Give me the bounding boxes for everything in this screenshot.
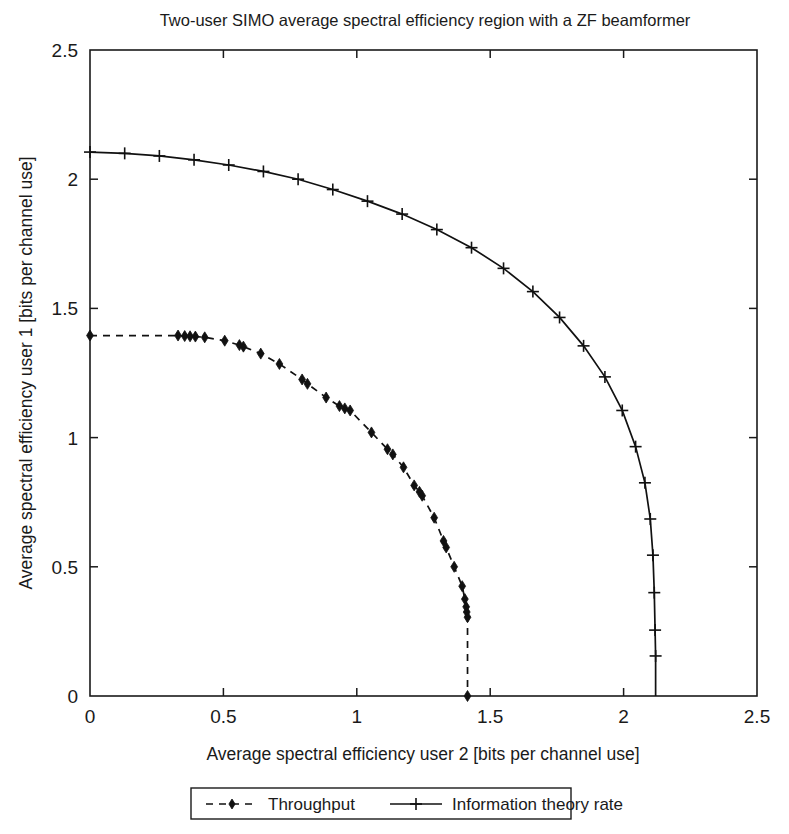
- marker-diamond: [464, 691, 471, 702]
- x-tick-label: 1: [352, 706, 363, 727]
- x-axis-ticks: [223, 50, 623, 696]
- marker-diamond: [175, 330, 182, 341]
- marker-plus: [644, 513, 656, 525]
- y-tick-label: 2.5: [52, 40, 78, 61]
- marker-plus: [648, 587, 660, 599]
- y-tick-label: 0.5: [52, 557, 78, 578]
- x-tick-label: 2.5: [744, 706, 770, 727]
- marker-plus: [153, 150, 165, 162]
- data-series-layer: [84, 146, 662, 701]
- x-tick-label: 0.5: [210, 706, 236, 727]
- legend-label: Information theory rate: [452, 795, 623, 814]
- marker-diamond: [201, 332, 208, 343]
- y-tick-label: 2: [67, 169, 78, 190]
- marker-plus: [84, 146, 96, 158]
- marker-diamond: [87, 330, 94, 341]
- series-2: [84, 146, 662, 696]
- marker-diamond: [221, 335, 228, 346]
- marker-plus: [327, 184, 339, 196]
- marker-plus: [188, 154, 200, 166]
- marker-plus: [630, 441, 642, 453]
- marker-plus: [431, 224, 443, 236]
- marker-plus: [649, 624, 661, 636]
- y-axis-title: Average spectral efficiency user 1 [bits…: [16, 156, 36, 589]
- marker-diamond: [336, 401, 343, 412]
- axes-border: [90, 50, 757, 696]
- x-axis-tick-labels: 00.511.522.5: [85, 706, 771, 727]
- chart-title: Two-user SIMO average spectral efficienc…: [160, 11, 691, 29]
- series-line: [90, 336, 468, 696]
- legend-label: Throughput: [268, 795, 355, 814]
- plot-frame: [90, 50, 757, 696]
- marker-diamond: [368, 427, 375, 438]
- marker-diamond: [192, 331, 199, 342]
- x-axis-title: Average spectral efficiency user 2 [bits…: [206, 744, 639, 764]
- y-tick-label: 1: [67, 428, 78, 449]
- marker-diamond: [257, 348, 264, 359]
- marker-diamond: [323, 392, 330, 403]
- marker-plus: [361, 195, 373, 207]
- marker-plus: [223, 159, 235, 171]
- marker-plus: [647, 549, 659, 561]
- marker-diamond: [276, 358, 283, 369]
- spectral-efficiency-region-chart: Two-user SIMO average spectral efficienc…: [0, 0, 789, 834]
- marker-diamond: [341, 403, 348, 414]
- marker-plus: [292, 173, 304, 185]
- y-tick-label: 0: [67, 686, 78, 707]
- y-tick-label: 1.5: [52, 298, 78, 319]
- marker-plus: [599, 371, 611, 383]
- x-tick-label: 0: [85, 706, 96, 727]
- series-1: [87, 330, 471, 701]
- chart-figure: Two-user SIMO average spectral efficienc…: [0, 0, 789, 834]
- marker-plus: [396, 208, 408, 220]
- x-tick-label: 2: [618, 706, 629, 727]
- marker-plus: [639, 477, 651, 489]
- marker-plus: [257, 165, 269, 177]
- marker-plus: [616, 404, 628, 416]
- marker-diamond: [347, 405, 354, 416]
- marker-plus: [466, 242, 478, 254]
- series-line: [90, 152, 656, 696]
- y-axis-ticks: [90, 179, 757, 567]
- x-tick-label: 1.5: [477, 706, 503, 727]
- marker-plus: [119, 147, 131, 159]
- marker-plus: [650, 650, 662, 662]
- y-axis-tick-labels: 00.511.522.5: [52, 40, 78, 707]
- chart-legend: ThroughputInformation theory rate: [191, 788, 623, 819]
